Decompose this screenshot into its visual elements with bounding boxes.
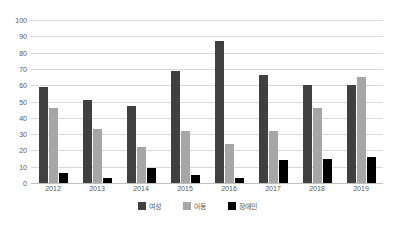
legend-item[interactable]: 여성 <box>138 202 161 210</box>
bar <box>171 71 180 183</box>
bar <box>313 108 322 183</box>
y-axis-tick-label: 40 <box>19 114 27 121</box>
bar <box>235 178 244 183</box>
bar <box>357 77 366 183</box>
y-axis-tick-label: 70 <box>19 65 27 72</box>
bar <box>279 160 288 183</box>
bar-group <box>251 20 295 183</box>
y-axis-tick-label: 20 <box>19 147 27 154</box>
y-axis-tick-label: 50 <box>19 98 27 105</box>
bar-group <box>75 20 119 183</box>
y-axis-tick-label: 100 <box>15 17 27 24</box>
bar <box>39 87 48 183</box>
bar <box>323 159 332 183</box>
x-axis-tick-label: 2012 <box>31 185 75 192</box>
gridline <box>31 183 383 184</box>
bar-group <box>207 20 251 183</box>
bar <box>127 106 136 183</box>
bar <box>367 157 376 183</box>
y-axis-tick-label: 90 <box>19 33 27 40</box>
bar <box>103 178 112 183</box>
legend-swatch-icon <box>138 202 146 210</box>
bar <box>259 75 268 183</box>
bar <box>347 85 356 183</box>
legend-swatch-icon <box>228 202 236 210</box>
y-axis-tick-label: 0 <box>23 180 27 187</box>
bar <box>49 108 58 183</box>
legend-label: 장애인 <box>239 203 257 210</box>
y-axis-tick-label: 80 <box>19 49 27 56</box>
legend-label: 아동 <box>194 203 206 210</box>
bar-chart: 0102030405060708090100 20122013201420152… <box>0 0 394 225</box>
x-axis-tick-label: 2017 <box>251 185 295 192</box>
legend-swatch-icon <box>183 202 191 210</box>
bar-groups <box>31 20 383 183</box>
x-axis-tick-label: 2019 <box>339 185 383 192</box>
bar <box>181 131 190 183</box>
bar <box>83 100 92 183</box>
legend-item[interactable]: 장애인 <box>228 202 257 210</box>
plot-area <box>31 20 383 183</box>
legend-item[interactable]: 아동 <box>183 202 206 210</box>
x-axis-tick-label: 2013 <box>75 185 119 192</box>
x-axis-tick-label: 2014 <box>119 185 163 192</box>
bar <box>215 41 224 183</box>
x-axis-tick-label: 2016 <box>207 185 251 192</box>
bar <box>147 168 156 183</box>
y-axis-tick-label: 30 <box>19 131 27 138</box>
bar <box>59 173 68 183</box>
bar-group <box>31 20 75 183</box>
chart-legend: 여성아동장애인 <box>0 202 394 210</box>
x-axis: 20122013201420152016201720182019 <box>31 185 383 192</box>
bar-group <box>163 20 207 183</box>
bar <box>137 147 146 183</box>
bar <box>191 175 200 183</box>
x-axis-tick-label: 2015 <box>163 185 207 192</box>
y-axis-tick-label: 10 <box>19 163 27 170</box>
y-axis-tick-label: 60 <box>19 82 27 89</box>
legend-label: 여성 <box>149 203 161 210</box>
x-axis-tick-label: 2018 <box>295 185 339 192</box>
bar <box>269 131 278 183</box>
y-axis: 0102030405060708090100 <box>0 20 27 183</box>
bar <box>93 129 102 183</box>
bar-group <box>339 20 383 183</box>
bar-group <box>119 20 163 183</box>
bar-group <box>295 20 339 183</box>
bar <box>303 85 312 183</box>
bar <box>225 144 234 183</box>
